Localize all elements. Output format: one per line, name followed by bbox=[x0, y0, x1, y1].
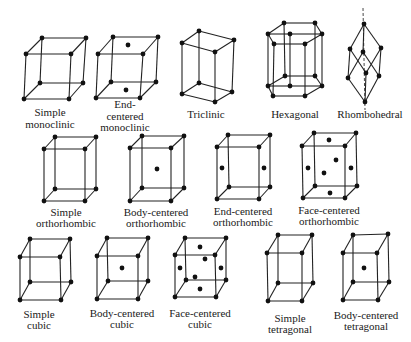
lattice-point-icon bbox=[375, 251, 380, 256]
lattice-point-icon bbox=[95, 297, 100, 302]
lattice-face-centered-orthorhombic: Face-centeredorthorhombic bbox=[298, 131, 360, 227]
lattice-point-icon bbox=[213, 253, 218, 258]
centered-lattice-point-icon bbox=[219, 266, 224, 271]
centered-lattice-point-icon bbox=[306, 166, 311, 171]
lattice-point-icon bbox=[303, 42, 308, 47]
lattice-point-icon bbox=[59, 298, 64, 303]
lattice-point-icon bbox=[271, 94, 276, 99]
lattice-point-icon bbox=[377, 74, 382, 79]
lattice-point-icon bbox=[53, 135, 58, 140]
lattice-point-icon bbox=[351, 233, 356, 238]
bravais-lattices-diagram: SimplemonoclinicEnd-centeredmonoclinicTr… bbox=[0, 0, 411, 342]
lattice-end-centered-monoclinic: End-centeredmonoclinic bbox=[94, 35, 161, 133]
lattice-face-centered-cubic: Face-centeredcubic bbox=[169, 236, 231, 330]
lattice-point-icon bbox=[182, 134, 187, 139]
lattice-point-icon bbox=[303, 94, 308, 99]
lattice-body-centered-tetragonal: Body-centeredtetragonal bbox=[334, 232, 399, 332]
lattice-point-icon bbox=[268, 133, 273, 138]
lattice-point-icon bbox=[58, 255, 63, 260]
lattice-label: cubic bbox=[110, 318, 134, 330]
lattice-point-icon bbox=[351, 280, 356, 285]
lattice-point-icon bbox=[311, 281, 316, 286]
lattice-point-icon bbox=[173, 253, 178, 258]
lattice-label: monoclinic bbox=[25, 118, 75, 130]
lattice-point-icon bbox=[180, 41, 185, 46]
lattice-point-icon bbox=[310, 233, 315, 238]
lattice-end-centered-orthorhombic: End-centeredorthorhombic bbox=[213, 133, 273, 228]
centered-lattice-point-icon bbox=[262, 166, 267, 171]
centered-lattice-point-icon bbox=[198, 287, 203, 292]
centered-lattice-point-icon bbox=[178, 266, 183, 271]
lattice-label: orthorhombic bbox=[213, 216, 273, 228]
lattice-point-icon bbox=[136, 254, 141, 259]
lattice-point-icon bbox=[197, 29, 202, 34]
lattice-point-icon bbox=[343, 144, 348, 149]
lattice-point-icon bbox=[346, 76, 351, 81]
lattice-point-icon bbox=[146, 279, 151, 284]
centered-lattice-point-icon bbox=[155, 167, 160, 172]
lattice-hexagonal: Hexagonal bbox=[266, 21, 325, 120]
lattice-simple-orthorhombic: Simpleorthorhombic bbox=[36, 135, 98, 229]
lattice-point-icon bbox=[266, 32, 271, 37]
lattice-point-icon bbox=[197, 81, 202, 86]
lattice-point-icon bbox=[320, 84, 325, 89]
lattice-point-icon bbox=[69, 280, 74, 285]
lattice-point-icon bbox=[182, 186, 187, 191]
lattice-point-icon bbox=[313, 74, 318, 79]
lattice-point-icon bbox=[28, 237, 33, 242]
lattice-label: Triclinic bbox=[187, 108, 225, 120]
lattice-point-icon bbox=[363, 100, 368, 105]
centered-lattice-point-icon bbox=[288, 84, 293, 89]
lattice-point-icon bbox=[138, 96, 143, 101]
lattice-point-icon bbox=[40, 36, 45, 41]
lattice-point-icon bbox=[213, 50, 218, 55]
lattice-point-icon bbox=[301, 196, 306, 201]
lattice-point-icon bbox=[362, 22, 367, 27]
lattice-point-icon bbox=[42, 199, 47, 204]
lattice-simple-monoclinic: Simplemonoclinic bbox=[22, 36, 89, 130]
lattice-point-icon bbox=[94, 187, 99, 192]
lattice-triclinic: Triclinic bbox=[180, 29, 237, 120]
lattice-point-icon bbox=[94, 135, 99, 140]
centered-lattice-point-icon bbox=[334, 158, 339, 163]
lattice-label: orthorhombic bbox=[299, 215, 359, 227]
centered-lattice-point-icon bbox=[120, 266, 125, 271]
lattice-label: cubic bbox=[27, 319, 51, 331]
lattice-point-icon bbox=[213, 100, 218, 105]
lattice-point-icon bbox=[341, 298, 346, 303]
lattice-point-icon bbox=[257, 145, 262, 150]
lattice-label: Hexagonal bbox=[271, 108, 319, 120]
lattice-point-icon bbox=[361, 50, 366, 55]
lattice-point-icon bbox=[141, 52, 146, 57]
lattice-point-icon bbox=[18, 255, 23, 260]
lattice-point-icon bbox=[154, 80, 159, 85]
lattice-label: Rhombohedral bbox=[337, 108, 402, 120]
lattice-point-icon bbox=[283, 74, 288, 79]
lattice-point-icon bbox=[265, 251, 270, 256]
centered-lattice-point-icon bbox=[322, 171, 327, 176]
lattice-point-icon bbox=[355, 184, 360, 189]
lattice-point-icon bbox=[146, 236, 151, 241]
lattice-point-icon bbox=[320, 32, 325, 37]
lattice-body-centered-orthorhombic: Body-centeredorthorhombic bbox=[124, 134, 189, 229]
lattice-point-icon bbox=[18, 298, 23, 303]
lattice-point-icon bbox=[215, 197, 220, 202]
lattice-point-icon bbox=[232, 38, 237, 43]
lattice-point-icon bbox=[230, 90, 235, 95]
lattice-point-icon bbox=[111, 35, 116, 40]
lattice-point-icon bbox=[140, 186, 145, 191]
lattice-point-icon bbox=[226, 133, 231, 138]
centered-lattice-point-icon bbox=[126, 43, 131, 48]
lattice-point-icon bbox=[38, 81, 43, 86]
lattice-point-icon bbox=[53, 187, 58, 192]
lattice-point-icon bbox=[312, 131, 317, 136]
lattice-point-icon bbox=[136, 297, 141, 302]
lattice-point-icon bbox=[69, 52, 74, 57]
lattice-point-icon bbox=[224, 278, 229, 283]
lattice-point-icon bbox=[266, 299, 271, 304]
lattice-point-icon bbox=[28, 280, 33, 285]
lattice-point-icon bbox=[95, 254, 100, 259]
lattice-point-icon bbox=[266, 84, 271, 89]
lattice-point-icon bbox=[83, 147, 88, 152]
lattice-point-icon bbox=[300, 251, 305, 256]
